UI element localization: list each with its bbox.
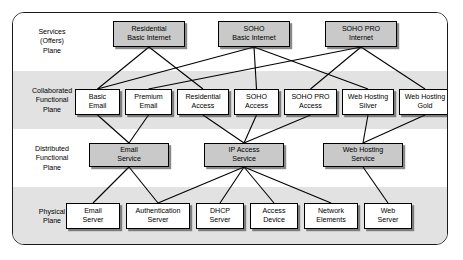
node-soho-basic-internet[interactable]: SOHOBasic Internet	[218, 21, 290, 47]
node-basic-email[interactable]: BasicEmail	[75, 89, 120, 115]
plane-label-line: Plane	[15, 47, 89, 56]
node-soho-pro-access[interactable]: SOHO PROAccess	[284, 89, 337, 115]
plane-label-line: Services	[15, 28, 89, 37]
plane-label-line: Plane	[15, 164, 89, 173]
connector-soho-pro-internet-to-web-hosting-gold	[361, 47, 425, 89]
node-label: BasicEmail	[88, 93, 108, 111]
node-web-hosting-gold[interactable]: Web HostingGold	[399, 89, 448, 115]
connector-res-basic-internet-to-basic-email	[98, 47, 150, 89]
plane-label-line: (Offers)	[15, 37, 89, 46]
node-label: ResidentialBasic Internet	[126, 25, 171, 43]
node-label: Web HostingSilver	[347, 93, 389, 111]
node-dhcp-server[interactable]: DHCPServer	[196, 203, 244, 229]
node-label: IP AccessService	[227, 146, 260, 164]
node-label: EmailService	[116, 146, 142, 164]
node-access-device[interactable]: AccessDevice	[250, 203, 298, 229]
node-label: AccessDevice	[262, 207, 287, 225]
node-email-service[interactable]: EmailService	[89, 143, 169, 167]
connector-web-hosting-silver-to-web-hosting-service	[363, 115, 368, 143]
plane-label-distributed: DistributedFunctionalPlane	[15, 145, 89, 173]
plane-label-line: Functional	[15, 154, 89, 163]
connector-web-hosting-gold-to-web-hosting-service	[363, 115, 425, 143]
connector-soho-basic-internet-to-web-hosting-silver	[254, 47, 368, 89]
node-label: SOHOAccess	[244, 93, 269, 111]
node-label: SOHO PROInternet	[341, 25, 381, 43]
node-label: DHCPServer	[209, 207, 232, 225]
connector-soho-basic-internet-to-basic-email	[98, 47, 255, 89]
node-network-elements[interactable]: NetworkElements	[304, 203, 358, 229]
node-res-basic-internet[interactable]: ResidentialBasic Internet	[113, 21, 185, 47]
connector-soho-pro-access-to-ip-access-service	[244, 115, 311, 143]
connector-web-hosting-service-to-web-server	[363, 167, 388, 203]
connector-basic-email-to-email-service	[98, 115, 130, 143]
node-email-server[interactable]: EmailServer	[66, 203, 120, 229]
connector-ip-access-service-to-authentication-server	[158, 167, 244, 203]
node-web-hosting-silver[interactable]: Web HostingSilver	[342, 89, 394, 115]
connector-ip-access-service-to-access-device	[244, 167, 274, 203]
plane-label-services: Services(Offers)Plane	[15, 28, 89, 56]
node-soho-access[interactable]: SOHOAccess	[234, 89, 279, 115]
node-web-hosting-service[interactable]: Web HostingService	[323, 143, 403, 167]
connector-email-service-to-email-server	[93, 167, 129, 203]
node-label: NetworkElements	[315, 207, 347, 225]
node-premium-email[interactable]: PremiumEmail	[125, 89, 172, 115]
connector-soho-pro-internet-to-soho-pro-access	[311, 47, 362, 89]
connector-ip-access-service-to-network-elements	[244, 167, 331, 203]
node-authentication-server[interactable]: AuthenticationServer	[126, 203, 190, 229]
node-label: SOHO PROAccess	[290, 93, 330, 111]
node-ip-access-service[interactable]: IP AccessService	[204, 143, 284, 167]
node-label: SOHOBasic Internet	[231, 25, 276, 43]
node-web-server[interactable]: WebServer	[364, 203, 412, 229]
node-label: Web HostingGold	[404, 93, 446, 111]
node-soho-pro-internet[interactable]: SOHO PROInternet	[325, 21, 397, 47]
node-label: Web HostingService	[342, 146, 384, 164]
node-label: AuthenticationServer	[135, 207, 182, 225]
node-residential-access[interactable]: ResidentialAccess	[177, 89, 229, 115]
node-label: EmailServer	[82, 207, 105, 225]
connector-premium-email-to-email-service	[129, 115, 149, 143]
node-label: PremiumEmail	[133, 93, 163, 111]
connector-email-service-to-authentication-server	[129, 167, 158, 203]
node-label: WebServer	[377, 207, 400, 225]
connector-residential-access-to-ip-access-service	[203, 115, 244, 143]
diagram-frame: Services(Offers)PlaneCollaboratedFunctio…	[12, 12, 448, 245]
diagram-canvas: Services(Offers)PlaneCollaboratedFunctio…	[0, 0, 463, 260]
node-label: ResidentialAccess	[184, 93, 221, 111]
plane-label-line: Distributed	[15, 145, 89, 154]
